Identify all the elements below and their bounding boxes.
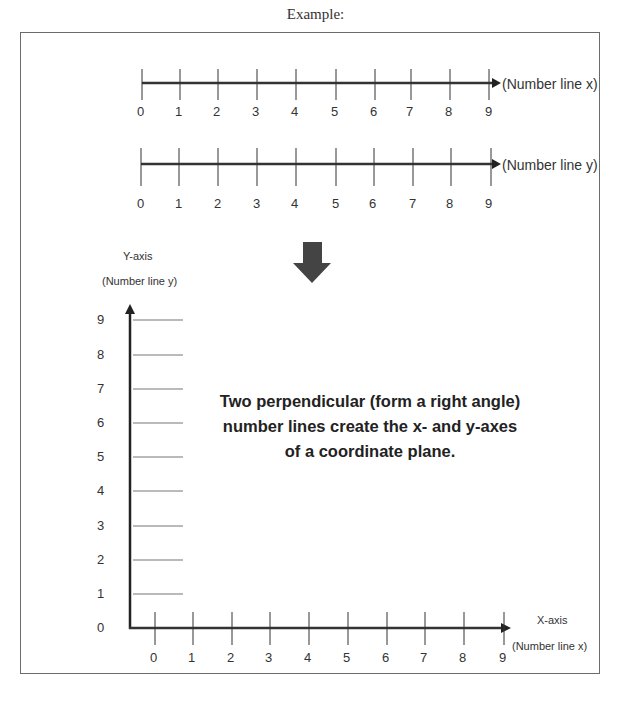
y-tick-label: 4	[97, 483, 104, 498]
arrowhead-icon	[125, 304, 135, 314]
x-tick-label: 6	[382, 650, 389, 665]
y-tick-label: 8	[97, 347, 104, 362]
tick-label: 7	[406, 104, 413, 119]
arrowhead-icon	[501, 623, 511, 633]
x-tick-label: 4	[304, 650, 311, 665]
y-axis-subtitle: (Number line y)	[102, 275, 177, 287]
tick-label: 8	[445, 104, 452, 119]
arrowhead-icon	[492, 78, 501, 88]
tick-label: 9	[485, 196, 492, 211]
y-axis	[125, 304, 183, 629]
y-tick-label: 0	[97, 620, 104, 635]
x-tick-label: 1	[188, 650, 195, 665]
tick-label: 3	[253, 196, 260, 211]
y-axis-title: Y-axis	[123, 250, 153, 262]
description-text: Two perpendicular (form a right angle) n…	[215, 389, 525, 464]
x-tick-label: 2	[227, 650, 234, 665]
tick-label: 0	[137, 196, 144, 211]
tick-label: 2	[214, 196, 221, 211]
x-tick-label: 9	[499, 650, 506, 665]
tick-label: 4	[291, 104, 298, 119]
x-tick-label: 5	[343, 650, 350, 665]
tick-label: 7	[409, 196, 416, 211]
y-tick-label: 3	[97, 518, 104, 533]
x-tick-label: 3	[265, 650, 272, 665]
tick-label: 2	[213, 104, 220, 119]
number-line-y-label: (Number line y)	[502, 157, 598, 173]
x-tick-label: 0	[150, 650, 157, 665]
number-line-x-label: (Number line x)	[502, 76, 598, 92]
tick-label: 8	[446, 196, 453, 211]
tick-label: 5	[331, 104, 338, 119]
tick-label: 6	[370, 104, 377, 119]
diagram-graphics	[0, 0, 631, 711]
number-line-y	[141, 148, 501, 186]
tick-label: 6	[369, 196, 376, 211]
x-axis-subtitle: (Number line x)	[512, 640, 587, 652]
y-tick-label: 9	[97, 312, 104, 327]
tick-label: 5	[332, 196, 339, 211]
y-tick-label: 6	[97, 415, 104, 430]
x-tick-label: 7	[420, 650, 427, 665]
tick-label: 3	[252, 104, 259, 119]
tick-label: 4	[291, 196, 298, 211]
down-arrow-icon	[293, 242, 331, 283]
y-tick-label: 1	[97, 586, 104, 601]
arrowhead-icon	[492, 159, 501, 169]
tick-label: 1	[175, 104, 182, 119]
number-line-x	[142, 69, 501, 100]
x-axis	[129, 612, 511, 645]
y-tick-label: 2	[97, 552, 104, 567]
tick-label: 1	[175, 196, 182, 211]
x-tick-label: 8	[459, 650, 466, 665]
x-axis-title: X-axis	[537, 614, 568, 626]
tick-label: 0	[137, 104, 144, 119]
tick-label: 9	[485, 104, 492, 119]
y-tick-label: 5	[97, 449, 104, 464]
y-tick-label: 7	[97, 381, 104, 396]
